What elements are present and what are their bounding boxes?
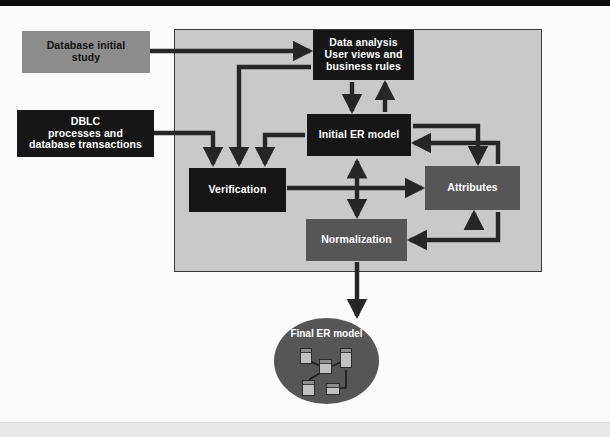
node-normalization[interactable]: Normalization: [306, 219, 407, 261]
node-label: DBLCprocesses anddatabase transactions: [29, 116, 142, 151]
edge-attributes-to-normalization: [410, 212, 498, 240]
node-database-initial-study[interactable]: Database initialstudy: [22, 31, 150, 73]
edge-attributes-to-initialer: [414, 143, 498, 164]
node-verification[interactable]: Verification: [189, 168, 286, 212]
mini-er-diagram: [288, 348, 366, 398]
mini-entity-2: [319, 359, 332, 374]
edge-dataanalysis-to-verification: [239, 67, 311, 164]
mini-entity-1: [300, 348, 312, 364]
node-label: Final ER model: [274, 328, 379, 339]
node-data-analysis[interactable]: Data analysisUser views andbusiness rule…: [313, 30, 414, 80]
node-label: Database initialstudy: [47, 40, 126, 64]
mini-entity-5: [326, 383, 340, 395]
node-label: Attributes: [447, 182, 498, 194]
node-label: Data analysisUser views andbusiness rule…: [325, 37, 403, 72]
mini-entity-4: [302, 380, 315, 396]
node-initial-er-model[interactable]: Initial ER model: [307, 114, 411, 156]
node-attributes[interactable]: Attributes: [425, 166, 520, 210]
node-final-er-model[interactable]: Final ER model: [274, 318, 379, 404]
mini-entity-3: [340, 348, 352, 368]
node-label: Normalization: [321, 234, 392, 246]
node-dblc[interactable]: DBLCprocesses anddatabase transactions: [17, 110, 154, 157]
edge-dblc-to-verification: [154, 133, 213, 164]
node-label: Initial ER model: [319, 129, 399, 141]
edge-initialer-to-verification: [265, 135, 305, 164]
bottom-band: [0, 422, 610, 437]
node-label: Verification: [209, 184, 267, 196]
